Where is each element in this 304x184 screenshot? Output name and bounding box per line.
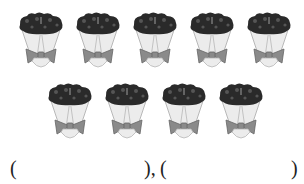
answer-blank-2[interactable] <box>172 155 290 181</box>
bouquet-row-2 <box>0 82 304 144</box>
open-paren-1: ( <box>10 155 17 181</box>
bouquet-icon <box>46 82 94 144</box>
open-paren-2: ( <box>160 155 167 181</box>
bouquet-icon <box>74 11 122 73</box>
bouquet-icon <box>217 82 265 144</box>
bouquet-icon <box>188 11 236 73</box>
close-paren-separator: ), <box>144 155 156 181</box>
bouquet-icon <box>103 82 151 144</box>
bouquet-row-1 <box>0 11 304 73</box>
answer-line: ( ), ( ) <box>0 155 304 181</box>
bouquet-icon <box>17 11 65 73</box>
close-paren-2: ) <box>291 155 298 181</box>
cutoff-instruction-text <box>0 0 304 3</box>
bouquet-icon <box>245 11 293 73</box>
bouquet-icon <box>131 11 179 73</box>
answer-blank-1[interactable] <box>22 155 142 181</box>
bouquet-icon <box>160 82 208 144</box>
